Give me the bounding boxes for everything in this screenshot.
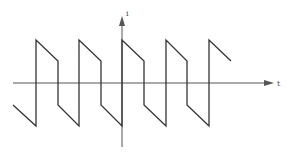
current-axis-arrow-icon	[119, 16, 125, 26]
waveform-diagram: t i	[0, 0, 288, 155]
time-axis-label: t	[277, 79, 281, 88]
current-axis-label: i	[126, 9, 129, 18]
time-axis-arrow-icon	[264, 80, 274, 86]
